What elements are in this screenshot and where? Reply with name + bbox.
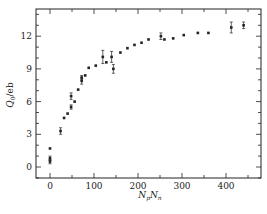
data-point — [163, 38, 166, 41]
data-point — [159, 33, 162, 40]
data-point — [126, 47, 129, 50]
data-point — [70, 93, 73, 100]
axis-ticks — [36, 9, 261, 178]
y-tick-label: 3 — [26, 129, 32, 139]
x-tick-label: 0 — [47, 181, 53, 191]
data-point — [49, 147, 52, 150]
scatter-chart: 0100200300400 036912 NpNn Q0/eb — [0, 0, 267, 214]
data-point — [147, 38, 150, 41]
plot-frame — [36, 9, 261, 178]
data-point — [110, 51, 113, 62]
data-point — [197, 32, 200, 35]
data-point — [140, 41, 143, 44]
data-point — [84, 74, 87, 77]
y-tick-labels: 036912 — [21, 31, 33, 172]
x-tick-label: 300 — [173, 181, 190, 191]
data-point — [73, 100, 76, 103]
data-point — [101, 50, 104, 63]
data-point — [112, 65, 115, 74]
x-axis-title: NpNn — [137, 190, 162, 202]
x-tick-label: 400 — [217, 181, 234, 191]
data-point — [59, 128, 62, 135]
data-point — [242, 22, 245, 29]
data-point — [87, 67, 90, 70]
data-point — [63, 117, 66, 120]
data-points — [49, 22, 246, 164]
data-point — [133, 44, 136, 47]
y-axis-title: Q0/eb — [5, 82, 16, 108]
data-point — [70, 105, 73, 109]
data-point — [119, 51, 122, 54]
data-point — [66, 112, 69, 115]
data-point — [207, 32, 210, 35]
x-tick-label: 100 — [85, 181, 102, 191]
y-tick-label: 9 — [26, 64, 32, 74]
data-point — [172, 37, 175, 40]
y-tick-label: 0 — [26, 162, 32, 172]
data-point — [49, 156, 52, 160]
data-point — [77, 88, 80, 91]
data-point — [182, 34, 185, 37]
data-point — [230, 22, 233, 33]
y-tick-label: 6 — [26, 97, 32, 107]
y-tick-label: 12 — [21, 31, 32, 41]
data-point — [105, 61, 108, 64]
data-point — [80, 75, 83, 79]
data-point — [94, 64, 97, 67]
